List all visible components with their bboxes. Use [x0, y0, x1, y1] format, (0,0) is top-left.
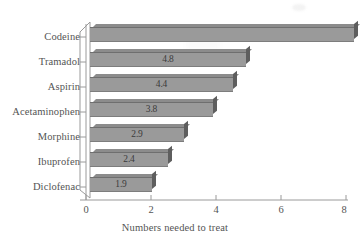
bar-row: 4.4: [86, 74, 350, 99]
x-tick-label: 6: [269, 204, 293, 215]
x-tick-label: 8: [332, 204, 356, 215]
bar-tramadol[interactable]: 4.8: [90, 52, 246, 67]
bar-row: 1.9: [86, 174, 350, 199]
bar-value-label: [90, 27, 354, 42]
x-tick-label: 4: [204, 204, 228, 215]
bar-row: 2.4: [86, 149, 350, 174]
x-tick-label: 2: [139, 204, 163, 215]
bar-value-label: 1.9: [90, 177, 152, 192]
bar-side-face: [168, 146, 172, 164]
bar-value-label: 4.4: [90, 77, 233, 92]
bar-side-face: [152, 171, 156, 189]
bar-aspirin[interactable]: 4.4: [90, 77, 233, 92]
category-label: Aspirin: [0, 81, 80, 93]
category-axis-labels: Codeine Tramadol Aspirin Acetaminophen M…: [0, 24, 80, 200]
bar-morphine[interactable]: 2.9: [90, 127, 184, 142]
bar-ibuprofen[interactable]: 2.4: [90, 152, 168, 167]
x-axis-tick-labels: 0 2 4 6 8: [0, 204, 350, 220]
category-label: Acetaminophen: [0, 106, 80, 118]
category-label: Morphine: [0, 131, 80, 143]
category-label: Diclofenac: [0, 181, 80, 193]
bar-acetaminophen[interactable]: 3.8: [90, 102, 213, 117]
bar-row: 3.8: [86, 99, 350, 124]
plot-area: 4.8 4.4 3.8: [86, 24, 350, 200]
bar-row: 4.8: [86, 49, 350, 74]
category-label: Ibuprofen: [0, 156, 80, 168]
bar-side-face: [184, 121, 188, 139]
category-label: Tramadol: [0, 56, 80, 68]
bar-row: [86, 24, 350, 49]
bar-side-face: [246, 46, 250, 64]
bar-value-label: 3.8: [90, 102, 213, 117]
bar-row: 2.9: [86, 124, 350, 149]
bar-side-face: [213, 96, 217, 114]
bar-codeine[interactable]: [90, 27, 354, 42]
bar-value-label: 4.8: [90, 52, 246, 67]
bar-diclofenac[interactable]: 1.9: [90, 177, 152, 192]
bar-value-label: 2.4: [90, 152, 168, 167]
bar-rows: 4.8 4.4 3.8: [86, 24, 350, 200]
x-axis-title: Numbers needed to treat: [0, 222, 350, 233]
x-tick-label: 0: [74, 204, 98, 215]
bar-side-face: [354, 21, 358, 39]
category-label: Codeine: [0, 31, 80, 43]
bar-side-face: [233, 71, 237, 89]
bar-value-label: 2.9: [90, 127, 184, 142]
